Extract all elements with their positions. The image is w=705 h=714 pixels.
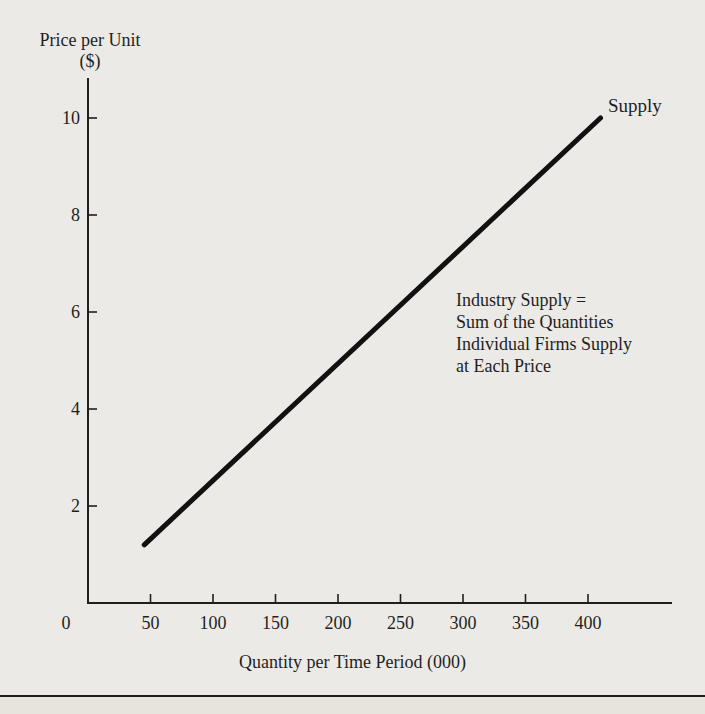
x-tick-label: 300 — [450, 613, 477, 633]
x-tick-label: 100 — [200, 613, 227, 633]
x-tick-label: 150 — [262, 613, 289, 633]
page-bottom-strip — [0, 697, 705, 714]
x-tick-label: 50 — [142, 613, 160, 633]
y-tick-label: 6 — [71, 302, 80, 322]
x-tick-label: 250 — [387, 613, 414, 633]
y-tick-label: 4 — [71, 399, 80, 419]
y-tick-label: 10 — [62, 108, 80, 128]
page-container: 246810501001502002503003504000 Price per… — [0, 0, 705, 714]
x-tick-label: 350 — [512, 613, 539, 633]
x-axis-title: Quantity per Time Period (000) — [0, 652, 705, 673]
annotation-text: Industry Supply = Sum of the Quantities … — [456, 289, 632, 377]
y-tick-label: 2 — [71, 496, 80, 516]
origin-label: 0 — [62, 613, 71, 633]
y-tick-label: 8 — [71, 205, 80, 225]
y-axis-title-line2: ($) — [18, 51, 162, 72]
supply-curve-label: Supply — [608, 95, 662, 117]
x-tick-label: 400 — [575, 613, 602, 633]
y-axis-title: Price per Unit ($) — [18, 30, 162, 72]
y-axis-title-line1: Price per Unit — [18, 30, 162, 51]
x-tick-label: 200 — [325, 613, 352, 633]
